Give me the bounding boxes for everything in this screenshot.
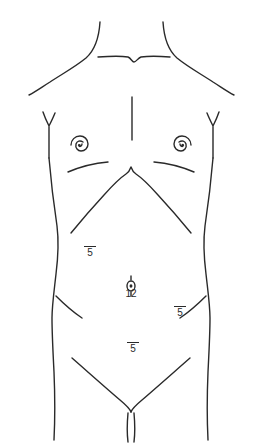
torso-diagram: 5 12 5 5 — [0, 0, 262, 446]
axilla-junction-left — [43, 112, 55, 158]
measure-label-suprapubic: 5 — [127, 342, 139, 354]
inframammary-fold-right — [154, 162, 194, 172]
genital-cleft — [127, 413, 135, 442]
torso-line-art — [0, 0, 262, 446]
costal-margin-arch — [71, 167, 191, 233]
areola-spiral-left — [71, 136, 88, 151]
areola-spiral-right — [174, 136, 191, 151]
flank-contour-right — [204, 158, 213, 440]
neck-contour-right — [163, 22, 234, 95]
inframammary-fold-left — [68, 162, 108, 172]
measure-label-upper-left-abdomen: 5 — [84, 246, 96, 258]
iliac-crest-line-left — [56, 296, 82, 318]
measure-label-umbilicus: 12 — [123, 289, 139, 299]
axilla-junction-right — [207, 112, 219, 158]
inguinal-crease-left — [72, 358, 131, 412]
inguinal-crease-right — [131, 358, 190, 412]
clavicle-line — [98, 56, 170, 62]
flank-contour-left — [49, 158, 58, 440]
neck-contour-left — [29, 22, 100, 95]
measure-label-right-lower-abdomen: 5 — [174, 306, 186, 318]
